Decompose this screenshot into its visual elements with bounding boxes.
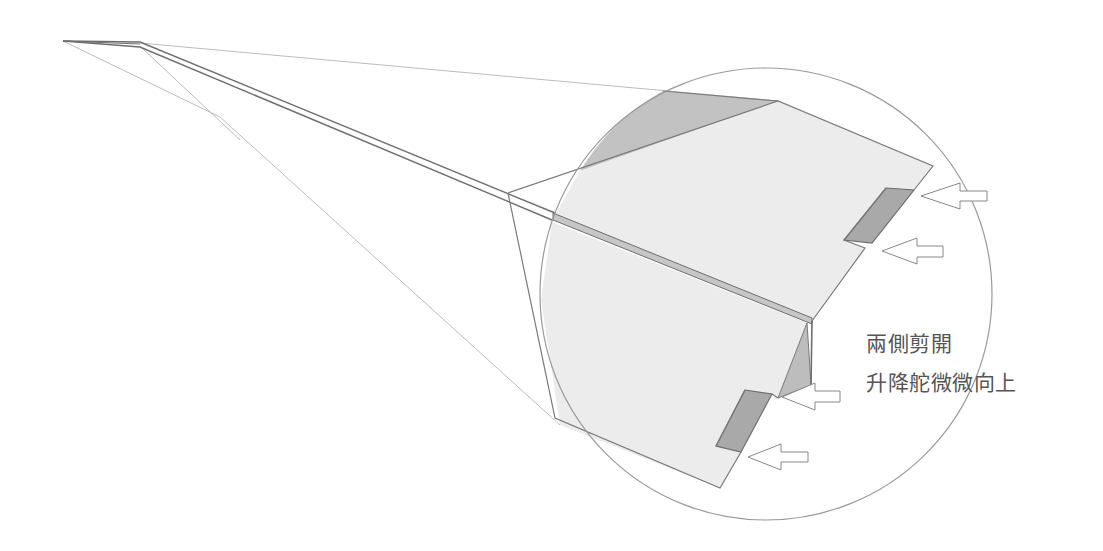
annotation-line-2: 升降舵微微向上 — [866, 366, 1096, 396]
arrow-icon — [921, 183, 987, 209]
keel-line — [811, 321, 812, 385]
magnified-plane — [508, 68, 992, 520]
annotation-line-1: 兩側剪開 — [866, 327, 1096, 357]
small-plane-outline — [63, 41, 555, 220]
arrow-icon — [882, 238, 943, 264]
arrow-icon — [748, 444, 808, 470]
paper-airplane-diagram — [0, 0, 1103, 551]
